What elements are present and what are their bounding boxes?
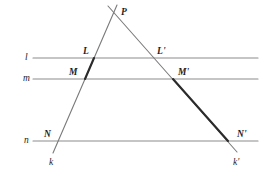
- line-label-l: l: [25, 53, 28, 63]
- line-label-k-prime: k': [233, 158, 239, 168]
- point-label-m-prime: M': [178, 68, 189, 78]
- point-label-l: L: [83, 47, 89, 57]
- point-label-l-prime: L': [157, 47, 166, 57]
- point-label-m: M: [69, 68, 78, 78]
- point-label-p: P: [121, 8, 127, 18]
- point-label-n: N: [44, 130, 51, 140]
- point-label-n-prime: N': [237, 130, 247, 140]
- parallel-lines-group: [33, 58, 258, 141]
- line-label-k: k: [49, 158, 53, 168]
- geometry-figure: l m n k k' P L L' M M' N N': [0, 0, 271, 180]
- line-label-n: n: [24, 136, 29, 146]
- figure-canvas: [0, 0, 271, 180]
- line-label-m: m: [23, 74, 30, 84]
- bold-segment-LM: [85, 58, 94, 79]
- bold-segment-MpNp: [173, 79, 228, 141]
